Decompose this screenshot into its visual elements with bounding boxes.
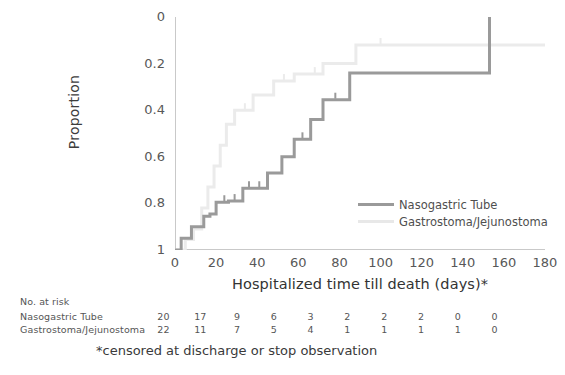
risk-row-label: Nasogastric Tube <box>20 311 145 322</box>
legend-label: Gastrostoma/Jejunostoma <box>399 215 548 229</box>
risk-cell: 22 <box>145 324 182 335</box>
y-tick-label: 0 <box>123 10 165 23</box>
x-tick-label: 20 <box>196 256 236 269</box>
risk-cell: 1 <box>366 324 403 335</box>
risk-cell: 20 <box>145 311 182 322</box>
risk-cell: 0 <box>439 311 476 322</box>
risk-table-row: Gastrostoma/Jejunostoma221175411110 <box>20 323 513 336</box>
risk-table-title: No. at risk <box>20 296 513 307</box>
risk-cell: 7 <box>219 324 256 335</box>
risk-cell: 0 <box>476 311 513 322</box>
x-axis-title: Hospitalized time till death (days)* <box>175 276 545 292</box>
risk-cell: 6 <box>255 311 292 322</box>
risk-cell: 1 <box>439 324 476 335</box>
risk-cell: 11 <box>182 324 219 335</box>
risk-cell: 2 <box>329 311 366 322</box>
legend: Nasogastric TubeGastrostoma/Jejunostoma <box>358 196 548 230</box>
risk-cell: 5 <box>255 324 292 335</box>
risk-cell: 0 <box>476 324 513 335</box>
x-tick-label: 160 <box>484 256 524 269</box>
x-tick-label: 60 <box>278 256 318 269</box>
x-tick-label: 40 <box>237 256 277 269</box>
footnote: *censored at discharge or stop observati… <box>96 343 377 358</box>
x-tick-label: 100 <box>361 256 401 269</box>
risk-table-row: Nasogastric Tube201796322200 <box>20 310 513 323</box>
legend-label: Nasogastric Tube <box>399 198 497 212</box>
risk-cell: 2 <box>366 311 403 322</box>
risk-cell: 9 <box>219 311 256 322</box>
risk-row-label: Gastrostoma/Jejunostoma <box>20 324 145 335</box>
risk-table-rows: Nasogastric Tube201796322200Gastrostoma/… <box>20 310 513 336</box>
x-tick-label: 0 <box>155 256 195 269</box>
y-tick-label: 0.4 <box>123 103 165 116</box>
y-tick-label: 0.8 <box>123 196 165 209</box>
x-tick-label: 80 <box>319 256 359 269</box>
x-tick-label: 180 <box>525 256 565 269</box>
y-tick-label: 0.2 <box>123 57 165 70</box>
risk-cell: 4 <box>292 324 329 335</box>
y-axis-title: Proportion <box>66 32 82 192</box>
risk-table: No. at risk Nasogastric Tube201796322200… <box>20 296 513 336</box>
y-tick-label: 1 <box>123 243 165 256</box>
risk-cell: 1 <box>403 324 440 335</box>
legend-swatch-icon <box>358 203 394 206</box>
y-tick-label: 0.6 <box>123 150 165 163</box>
risk-cell: 2 <box>403 311 440 322</box>
legend-item: Nasogastric Tube <box>358 196 548 213</box>
risk-cell: 1 <box>329 324 366 335</box>
legend-item: Gastrostoma/Jejunostoma <box>358 213 548 230</box>
x-tick-label: 140 <box>443 256 483 269</box>
legend-swatch-icon <box>358 220 394 223</box>
kaplan-meier-figure: Proportion 00.20.40.60.81 02040608010012… <box>0 0 565 375</box>
risk-cell: 17 <box>182 311 219 322</box>
risk-cell: 3 <box>292 311 329 322</box>
x-tick-label: 120 <box>402 256 442 269</box>
